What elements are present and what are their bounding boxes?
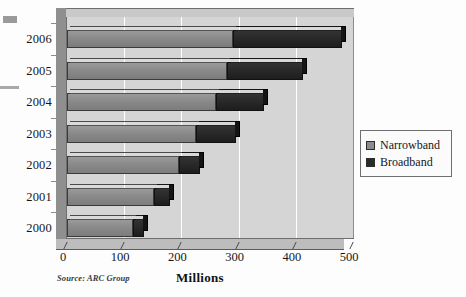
bar-bevel [70,215,136,220]
bar-row-2000 [67,219,353,237]
legend-item-broadband: Broadband [366,154,447,170]
bar-segment-narrowband-2004 [67,93,216,111]
scan-artifact-left [0,86,19,89]
y-axis-label-2005: 2005 [8,64,52,79]
bar-row-2003 [67,125,353,143]
bar-row-2004 [67,93,353,111]
x-axis-tick-label-400: 400 [272,250,312,265]
y-axis-label-2000: 2000 [8,221,52,236]
bar-end-cap [263,89,268,105]
chart-screenshot: 2006200520042003200220012000 01002003004… [0,0,466,297]
bar-segment-narrowband-2001 [67,188,154,206]
y-axis-label-2001: 2001 [8,190,52,205]
bar-segment-narrowband-2003 [67,125,196,143]
bar-row-2006 [67,30,353,48]
bar-bevel [236,26,345,31]
bar-end-cap [341,26,346,42]
bar-end-cap [302,58,307,74]
plot-panel [66,17,354,239]
plot-floor [56,239,344,250]
bar-bevel [199,121,239,126]
bar-segment-broadband-2002 [179,156,201,174]
bar-row-2005 [67,62,353,80]
bar-bevel [70,152,182,157]
bar-segment-broadband-2003 [196,125,236,143]
bar-bevel [219,89,268,94]
bar-row-2001 [67,188,353,206]
bar-segment-narrowband-2006 [67,30,233,48]
legend-swatch-narrowband [366,141,375,150]
bar-segment-broadband-2004 [216,93,265,111]
scan-artifact-top [3,16,17,23]
bar-end-cap [235,121,240,137]
y-axis-label-2006: 2006 [8,32,52,47]
bar-bevel [70,89,219,94]
y-axis-label-2002: 2002 [8,158,52,173]
bar-bevel [230,58,306,63]
x-axis-title: Millions [176,270,224,286]
bar-bevel [70,121,199,126]
y-axis-label-2004: 2004 [8,95,52,110]
legend-label-narrowband: Narrowband [380,138,440,153]
bar-segment-narrowband-2002 [67,156,179,174]
source-note: Source: ARC Group [57,273,130,283]
legend-swatch-broadband [366,158,375,167]
bar-segment-broadband-2006 [233,30,342,48]
bar-segment-broadband-2005 [227,62,303,80]
bar-end-cap [169,184,174,200]
bar-segment-narrowband-2000 [67,219,133,237]
plot-area [56,8,354,248]
x-axis-tick-label-100: 100 [100,250,140,265]
gridline-500 [353,17,354,238]
legend-item-narrowband: Narrowband [366,137,447,153]
bar-bevel [70,58,230,63]
x-axis-tick-label-300: 300 [215,250,255,265]
chart-legend: Narrowband Broadband [360,130,452,177]
bar-bevel [70,26,236,31]
x-axis-tick-label-200: 200 [157,250,197,265]
bar-segment-broadband-2001 [154,188,170,206]
y-axis-label-2003: 2003 [8,127,52,142]
x-axis-tick-label-500: 500 [329,250,369,265]
bar-row-2002 [67,156,353,174]
x-axis-tick-label-0: 0 [43,250,83,265]
bar-segment-narrowband-2005 [67,62,227,80]
bar-end-cap [143,215,148,231]
bar-bevel [70,184,157,189]
bar-end-cap [199,152,204,168]
legend-label-broadband: Broadband [380,155,433,170]
bar-segment-broadband-2000 [133,219,144,237]
